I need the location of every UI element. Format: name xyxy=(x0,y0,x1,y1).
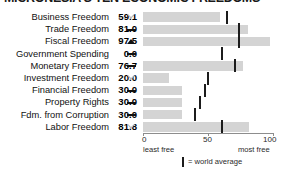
freedom-bar xyxy=(143,73,169,82)
trend-flat-icon xyxy=(126,60,140,72)
plot-area xyxy=(143,11,273,133)
trend-flat-icon xyxy=(126,84,140,96)
freedom-row-label: Business Freedom xyxy=(31,11,109,23)
world-average-tick xyxy=(221,120,223,133)
freedom-bar xyxy=(143,37,270,46)
freedom-row-label: Monetary Freedom xyxy=(30,60,109,72)
freedom-row-label: Investment Freedom xyxy=(24,72,109,84)
world-average-tick xyxy=(238,23,240,36)
trend-flat-icon xyxy=(126,96,140,108)
trend-down-icon xyxy=(126,121,140,133)
trend-flat-icon xyxy=(126,48,140,60)
freedom-row-label: Labor Freedom xyxy=(45,121,109,133)
freedom-row-label: Fiscal Freedom xyxy=(45,35,109,47)
economic-freedoms-chart: MICRONESIA'S TEN ECONOMIC FREEDOMS Busin… xyxy=(0,0,283,172)
freedom-bar xyxy=(143,61,243,70)
world-average-tick xyxy=(194,108,196,121)
trend-down-icon xyxy=(126,72,140,84)
freedom-row-label: Property Rights xyxy=(45,96,109,108)
world-average-tick xyxy=(238,35,240,48)
freedom-row-label: Government Spending xyxy=(16,48,109,60)
trend-flat-icon xyxy=(126,23,140,35)
freedom-bar xyxy=(143,122,249,131)
world-average-marker-icon xyxy=(182,157,184,167)
axis-caption-most-free: most free xyxy=(238,145,270,154)
freedom-bar xyxy=(143,98,182,107)
axis-tick-label: 100 xyxy=(263,135,276,144)
freedom-bar xyxy=(143,110,182,119)
freedom-row-label: Trade Freedom xyxy=(45,23,109,35)
trend-up-icon xyxy=(126,35,140,47)
freedom-bar xyxy=(143,12,220,21)
world-average-tick xyxy=(221,47,223,60)
legend-label: = world average xyxy=(188,157,242,167)
freedom-bar xyxy=(143,25,248,34)
world-average-tick xyxy=(199,96,201,109)
world-average-tick xyxy=(226,11,228,24)
trend-flat-icon xyxy=(126,109,140,121)
world-average-tick xyxy=(234,59,236,72)
freedom-bar xyxy=(143,86,182,95)
freedom-row-label: Financial Freedom xyxy=(32,84,109,96)
freedom-row-label: Fdm. from Corruption xyxy=(21,109,109,121)
axis-tick-label: 0 xyxy=(142,135,146,144)
chart-title: MICRONESIA'S TEN ECONOMIC FREEDOMS xyxy=(4,0,280,5)
axis-caption-least-free: least free xyxy=(143,145,174,154)
world-average-tick xyxy=(207,72,209,85)
world-average-tick xyxy=(204,84,206,97)
axis-tick-label: 50 xyxy=(203,135,212,144)
trend-down-icon xyxy=(126,11,140,23)
